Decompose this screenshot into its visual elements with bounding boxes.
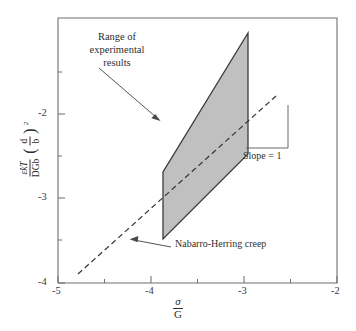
y-axis-major-ticks [58,114,65,283]
y-axis-title-paren-fraction: d b [20,137,41,146]
y-axis-title-prefix-denominator: DGb [31,157,41,179]
y-axis-title-paren-numerator: d [20,137,31,146]
range-annotation-line-3: results [71,57,163,70]
x-axis-minor-ticks [105,279,291,283]
slope-annotation: Slope = 1 [243,151,281,162]
range-leader-arrow [99,68,161,121]
range-annotation: Range of experimental results [71,31,163,69]
y-axis-title-prefix-fraction: ε̇kT DGb [20,157,41,179]
x-axis-title-fraction: σ G [172,296,184,320]
range-annotation-line-1: Range of [71,31,163,44]
x-tick-label-1: -4 [145,285,154,296]
nabarro-herring-annotation: Nabarro-Herring creep [175,239,266,250]
x-tick-label-0: -5 [52,285,61,296]
y-axis-title-paren-close: ) [24,128,37,133]
y-tick-label-2: -4 [38,276,47,287]
x-axis-title-numerator: σ [173,296,182,309]
x-tick-label-2: -3 [238,285,247,296]
slope-reference-triangle [246,105,288,148]
y-axis-title-exponent: 2 [21,122,29,126]
y-axis-title-prefix-numerator: ε̇kT [20,159,31,176]
y-axis-minor-ticks [58,72,62,240]
x-tick-label-3: -2 [331,285,340,296]
range-annotation-line-2: experimental [71,44,163,57]
experimental-range-band [163,33,248,239]
x-axis-title: σ G [0,296,356,320]
y-axis-title-paren-denominator: b [31,137,41,146]
figure-container: -5 -4 -3 -2 -2 -3 -4 ε̇kT DGb ( d b ) 2 … [0,0,356,331]
y-axis-title-paren-open: ( [24,148,37,153]
x-axis-title-denominator: G [172,309,184,321]
y-axis-title: ε̇kT DGb ( d b ) 2 [2,112,56,212]
